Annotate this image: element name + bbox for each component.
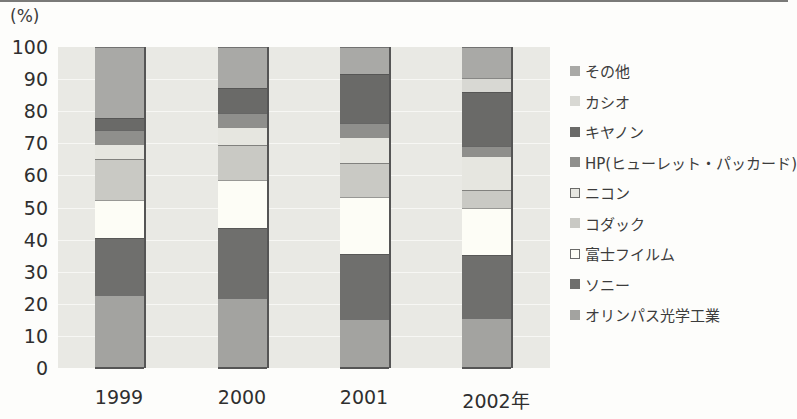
legend-swatch-icon: [570, 157, 580, 167]
stacked-bar: [340, 47, 389, 368]
legend-swatch-icon: [570, 249, 580, 259]
bar-base: [218, 367, 267, 369]
bar-segment: [462, 255, 511, 318]
legend-item: カシオ: [570, 91, 630, 112]
y-tick-label: 100: [0, 37, 48, 57]
bar-segment: [218, 127, 267, 145]
y-tick-label: 40: [0, 230, 48, 250]
legend-label: HP(ヒューレット・パッカード): [585, 152, 797, 173]
legend-item: ニコン: [570, 182, 630, 203]
bar-base: [340, 367, 389, 369]
bar-segment: [218, 47, 267, 88]
x-tick-label: 2002年: [446, 386, 546, 413]
legend-swatch-icon: [570, 188, 580, 198]
bar-segment: [462, 146, 511, 156]
plot-area: [58, 47, 550, 368]
y-tick-label: 50: [0, 198, 48, 218]
legend-label: ソニー: [585, 274, 630, 295]
bar-segment: [95, 47, 144, 118]
legend-label: キヤノン: [585, 121, 644, 142]
bar-segment: [218, 298, 267, 368]
bar-segment: [340, 319, 389, 368]
bar-segment: [340, 47, 389, 74]
bar-segment: [462, 208, 511, 256]
bar-segment: [95, 130, 144, 144]
bar-shadow: [511, 47, 513, 368]
legend-label: ニコン: [585, 182, 630, 203]
bar-segment: [95, 159, 144, 200]
bar-shadow: [144, 47, 146, 368]
legend-swatch-icon: [570, 127, 580, 137]
bar-shadow: [389, 47, 391, 368]
bar-segment: [218, 88, 267, 113]
bar-segment: [95, 295, 144, 368]
bar-segment: [462, 47, 511, 78]
y-axis-unit-label: (%): [10, 6, 39, 26]
bar-segment: [462, 156, 511, 190]
x-tick-label: 1999: [69, 386, 169, 408]
bar-segment: [340, 197, 389, 254]
stacked-bar: [95, 47, 144, 368]
bar-segment: [340, 123, 389, 136]
legend-item: オリンパス光学工業: [570, 304, 720, 325]
legend-item: その他: [570, 60, 630, 81]
y-tick-label: 60: [0, 165, 48, 185]
stacked-bar: [218, 47, 267, 368]
legend-item: HP(ヒューレット・パッカード): [570, 152, 797, 173]
legend-label: カシオ: [585, 91, 630, 112]
x-tick-label: 2000: [192, 386, 292, 408]
y-tick-label: 10: [0, 326, 48, 346]
stacked-bar: [462, 47, 511, 368]
y-tick-label: 30: [0, 262, 48, 282]
bar-segment: [462, 318, 511, 368]
y-tick-label: 20: [0, 294, 48, 314]
bar-segment: [218, 228, 267, 298]
y-tick-label: 0: [0, 358, 48, 378]
legend-label: 富士フイルム: [585, 243, 675, 264]
bar-segment: [218, 145, 267, 180]
y-tick-label: 90: [0, 69, 48, 89]
legend-item: コダック: [570, 213, 645, 234]
legend-swatch-icon: [570, 279, 580, 289]
legend-swatch-icon: [570, 96, 580, 106]
bar-segment: [95, 144, 144, 159]
bar-segment: [462, 92, 511, 146]
legend-label: コダック: [585, 213, 645, 234]
bar-shadow: [267, 47, 269, 368]
bar-segment: [340, 74, 389, 123]
legend-item: 富士フイルム: [570, 243, 675, 264]
legend-swatch-icon: [570, 218, 580, 228]
y-tick-label: 70: [0, 133, 48, 153]
legend-label: オリンパス光学工業: [585, 304, 720, 325]
legend-swatch-icon: [570, 66, 580, 76]
bar-segment: [462, 190, 511, 208]
legend-swatch-icon: [570, 310, 580, 320]
bar-segment: [340, 137, 389, 164]
bar-segment: [95, 238, 144, 295]
bar-segment: [340, 163, 389, 196]
top-border-line: [0, 0, 788, 2]
bar-segment: [95, 200, 144, 238]
x-tick-label: 2001: [314, 386, 414, 408]
bar-segment: [340, 254, 389, 319]
bar-segment: [95, 118, 144, 130]
legend-label: その他: [585, 60, 630, 81]
legend-item: ソニー: [570, 274, 630, 295]
y-tick-label: 80: [0, 101, 48, 121]
bar-segment: [218, 180, 267, 228]
bar-base: [462, 367, 511, 369]
bar-segment: [218, 113, 267, 127]
legend-item: キヤノン: [570, 121, 644, 142]
bar-base: [95, 367, 144, 369]
bar-segment: [462, 78, 511, 92]
